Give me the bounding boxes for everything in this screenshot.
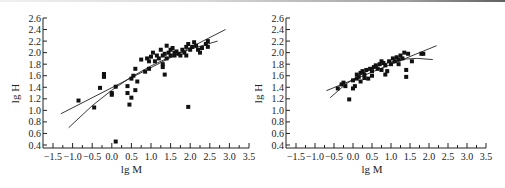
y-tick-label: 0.4 [272,140,285,151]
data-point [131,74,135,78]
y-tick-label: 0.8 [29,116,42,127]
x-axis-title: lg M [121,163,142,175]
data-point [366,77,370,81]
x-tick-label: 3.0 [223,151,236,162]
data-point [385,69,389,73]
data-point [364,68,368,72]
data-point [92,105,96,109]
data-point [114,140,118,144]
data-point [347,97,351,101]
data-point [114,85,118,89]
data-point [370,74,374,78]
x-tick-label: 1.5 [404,151,417,162]
data-point [397,62,401,66]
data-point [406,52,410,56]
data-point [362,76,366,80]
y-tick-label: 2.2 [29,36,42,47]
data-point [165,56,169,60]
data-point [359,80,363,84]
data-point [125,84,129,88]
y-tick-label: 1.4 [29,82,42,93]
data-point [383,63,387,67]
data-point [153,59,157,63]
data-point [173,54,177,58]
y-tick-label: 1.6 [272,70,285,81]
y-tick-label: 2.2 [272,36,285,47]
x-axis-title: lg M [361,163,382,175]
y-tick-label: 2.6 [29,13,42,24]
data-point [362,73,366,77]
data-point [184,54,188,58]
x-tick-label: 3.0 [461,151,474,162]
data-point [404,75,408,79]
data-point [186,42,190,46]
scatter-chart-right: 0.40.60.81.01.21.41.61.82.02.22.42.6−1.5… [255,0,505,188]
data-point [380,68,384,72]
data-point [410,59,414,63]
y-tick-label: 1.0 [29,105,42,116]
data-point [135,80,139,84]
y-tick-label: 2.0 [29,47,42,58]
x-tick-label: 2.0 [184,151,197,162]
y-tick-label: 0.8 [272,116,285,127]
data-point [127,103,131,107]
x-tick-label: 0.5 [125,151,138,162]
y-tick-label: 1.0 [272,105,285,116]
y-tick-label: 2.0 [272,47,285,58]
data-point [76,99,80,103]
data-point [129,96,133,100]
data-point [421,52,425,56]
data-point [143,70,147,74]
data-point [171,46,175,50]
y-tick-label: 1.2 [29,93,42,104]
data-point [206,39,210,43]
y-tick-label: 0.6 [29,128,42,139]
data-point [157,56,161,60]
x-tick-label: 2.5 [442,151,455,162]
data-point [159,48,163,52]
x-tick-label: 0.5 [366,151,379,162]
y-tick-label: 1.8 [29,59,42,70]
x-tick-label: 3.5 [243,151,255,162]
data-point [125,91,129,95]
y-tick-label: 1.4 [272,82,285,93]
y-tick-label: 1.6 [29,70,42,81]
data-point [336,86,340,90]
data-point [194,44,198,48]
x-tick-label: 0.0 [106,151,119,162]
x-tick-label: 1.5 [164,151,177,162]
data-point [161,65,165,69]
y-tick-label: 1.2 [272,93,285,104]
data-point [370,69,374,73]
data-point [186,105,190,109]
data-point [351,78,355,82]
data-point [98,86,102,90]
data-point [393,59,397,63]
x-tick-label: −0.5 [325,151,343,162]
data-point [133,67,137,71]
x-tick-label: 2.5 [204,151,217,162]
data-point [200,46,204,50]
data-point [343,84,347,88]
data-point [147,59,151,63]
data-point [133,88,137,92]
data-point [376,67,380,71]
data-point [374,63,378,67]
y-tick-label: 2.4 [272,24,285,35]
data-point [206,45,210,49]
data-point [192,40,196,44]
data-point [361,69,365,73]
data-point [404,68,408,72]
y-axis-title: lg H [255,84,264,103]
data-point [165,44,169,48]
x-tick-label: −1.5 [287,151,305,162]
data-point [163,52,167,56]
y-tick-label: 0.6 [272,128,285,139]
y-axis-title: lg H [9,84,21,103]
data-point [353,84,357,88]
data-point [163,73,167,77]
x-tick-label: 1.0 [385,151,398,162]
data-point [151,51,155,55]
y-tick-label: 2.6 [272,13,285,24]
data-point [400,56,404,60]
